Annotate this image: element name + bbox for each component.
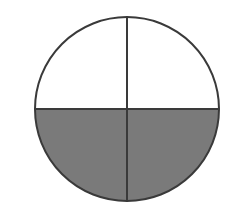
circle-svg — [0, 0, 234, 216]
fraction-circle-diagram — [0, 0, 234, 216]
